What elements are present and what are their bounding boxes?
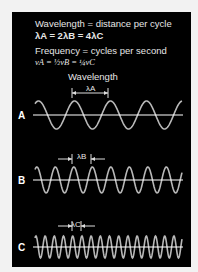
wave-diagram	[0, 0, 198, 272]
